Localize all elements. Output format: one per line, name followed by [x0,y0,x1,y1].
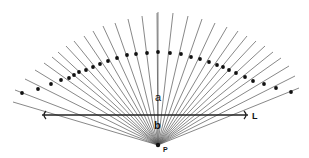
ray [158,46,265,145]
ray [13,102,158,145]
label-a: a [155,91,162,103]
ray [66,46,158,145]
ray [93,31,158,145]
ray-dot [189,55,193,59]
ray-dot [289,90,293,94]
ray-dot [156,50,160,54]
ray-dot [179,52,183,56]
ray-dot [49,82,53,86]
ray [44,63,158,145]
ray-fan-diagram: a b L P [0,0,309,158]
ray-dot [215,63,219,67]
ray [158,16,188,145]
ray-dot [207,60,211,64]
label-L: L [252,111,258,121]
label-P: P [163,146,168,153]
ray-dot [262,82,266,86]
ray [35,70,158,145]
ray [58,52,158,145]
ray-dot [77,70,81,74]
ray-dot [91,65,95,69]
point-p-marker [156,143,160,147]
ray-dot [198,57,202,61]
ray-dot [221,65,225,69]
ray-dot [274,86,278,90]
ray-dot [125,53,129,57]
ray-dot [243,75,247,79]
ray-dot [227,68,231,72]
ray [158,58,281,145]
ray-dot [168,51,172,55]
ray-dot [59,78,63,82]
ray [158,23,215,145]
ray-dot [98,62,102,66]
ray [158,66,289,145]
ray-dot [67,76,71,80]
ray-dot [36,87,40,91]
ray-dot [251,79,255,83]
ray-dot [106,59,110,63]
ray-dot [145,51,149,55]
ray [158,88,299,145]
ray-dot [20,91,24,95]
ray [52,57,158,145]
ray [158,31,238,145]
ray [158,41,256,145]
ray-dot [234,71,238,75]
label-b: b [154,119,161,131]
ray-dot [115,56,119,60]
ray-dot [134,52,138,56]
ray-dot [84,68,88,72]
ray-dot [72,73,76,77]
